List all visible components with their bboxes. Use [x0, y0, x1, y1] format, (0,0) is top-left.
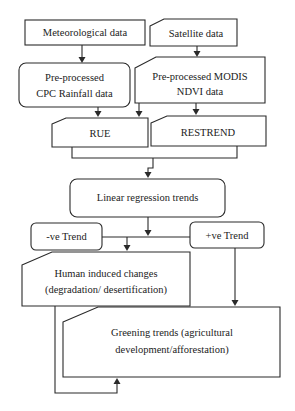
- node-label-line2: CPC Rainfall data: [36, 88, 113, 99]
- card-shape: [63, 307, 280, 377]
- connector-line: [148, 158, 153, 173]
- node-label: Meteorological data: [43, 27, 128, 38]
- arrow-head-icon: [136, 111, 143, 117]
- node-label-line1: Pre-processed: [45, 72, 105, 83]
- node-label: +ve Trend: [206, 230, 250, 241]
- node-satellite-data: Satellite data: [150, 19, 237, 46]
- arrow-head-icon: [232, 300, 239, 306]
- node-human-induced-changes: Human induced changes (degradation/ dese…: [22, 252, 190, 306]
- rounded-rectangle-shape: [19, 63, 130, 107]
- node-cpc-rainfall: Pre-processed CPC Rainfall data: [19, 63, 130, 107]
- arrow-head-icon: [194, 51, 201, 57]
- node-rue: RUE: [52, 118, 148, 147]
- node-positive-trend: +ve Trend: [190, 222, 264, 248]
- node-label: RESTREND: [181, 127, 236, 138]
- node-meteorological-data: Meteorological data: [25, 20, 145, 45]
- node-greening-trends: Greening trends (agricultural developmen…: [63, 307, 280, 377]
- arrow-head-icon: [79, 57, 86, 63]
- node-restrend: RESTREND: [151, 116, 266, 146]
- node-label: Satellite data: [169, 28, 224, 39]
- node-modis-ndvi: Pre-processed MODIS NDVI data: [135, 57, 265, 103]
- node-label-line2: NDVI data: [177, 86, 224, 97]
- node-linear-regression: Linear regression trends: [70, 179, 225, 217]
- node-label-line1: Pre-processed MODIS: [152, 71, 248, 82]
- node-label: RUE: [90, 128, 111, 139]
- node-label: Linear regression trends: [97, 192, 198, 203]
- node-label-line2: development/afforestation): [115, 344, 229, 356]
- card-shape: [22, 252, 190, 306]
- arrow-head-icon: [114, 378, 121, 384]
- node-label: -ve Trend: [46, 231, 87, 242]
- flowchart: Meteorological data Satellite data Pre-p…: [0, 0, 295, 411]
- arrow-head-icon: [193, 109, 200, 115]
- node-label-line1: Human induced changes: [54, 268, 157, 279]
- arrow-head-icon: [95, 111, 102, 117]
- node-negative-trend: -ve Trend: [31, 223, 102, 250]
- merge-connector-line: [72, 146, 237, 158]
- arrow-head-icon: [124, 245, 131, 251]
- node-label-line1: Greening trends (agricultural: [111, 327, 233, 339]
- arrow-head-icon: [145, 172, 152, 178]
- node-label-line2: (degradation/ desertification): [45, 284, 168, 296]
- arrow-head-icon: [145, 230, 152, 236]
